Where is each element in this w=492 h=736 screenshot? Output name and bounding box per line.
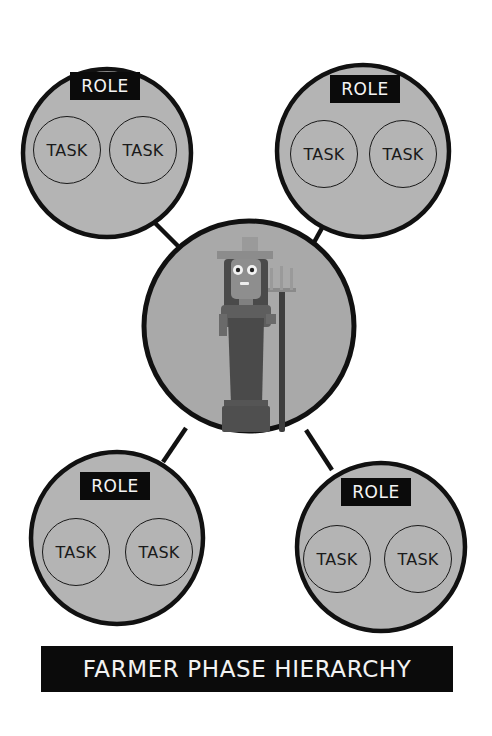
task-circle: TASK [290, 120, 358, 188]
role-label-top-right: ROLE [330, 75, 400, 103]
connector-bottom-left [163, 428, 186, 462]
task-circle: TASK [303, 525, 371, 593]
role-label-bottom-right: ROLE [341, 478, 411, 506]
role-label-top-left: ROLE [70, 72, 140, 100]
diagram-title: FARMER PHASE HIERARCHY [41, 646, 453, 692]
task-circle: TASK [42, 518, 110, 586]
role-label-bottom-left: ROLE [80, 472, 150, 500]
task-circle: TASK [33, 116, 101, 184]
connector-bottom-right [306, 430, 332, 470]
task-circle: TASK [109, 116, 177, 184]
task-circle: TASK [384, 525, 452, 593]
hierarchy-diagram [0, 0, 492, 736]
task-circle: TASK [125, 518, 193, 586]
task-circle: TASK [369, 120, 437, 188]
